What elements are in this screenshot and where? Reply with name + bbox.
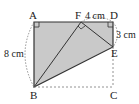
label-A: A (29, 9, 37, 21)
dimension-AB: 8 cm (4, 48, 24, 59)
label-C: C (110, 89, 117, 101)
geometry-diagram: A F D E B C 8 cm 4 cm 3 cm (0, 0, 139, 104)
label-F: F (75, 9, 81, 21)
label-D: D (110, 9, 118, 21)
label-B: B (30, 89, 37, 101)
label-E: E (111, 47, 118, 59)
dimension-DE: 3 cm (116, 29, 136, 40)
arc-AB (25, 22, 34, 87)
dimension-FD: 4 cm (85, 10, 105, 21)
